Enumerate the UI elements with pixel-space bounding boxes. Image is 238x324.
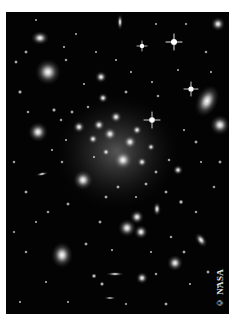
- nasa-credit: © NASA: [215, 269, 225, 308]
- galaxy-cluster-photo: © NASA: [6, 12, 229, 314]
- deep-field-image: [6, 12, 229, 314]
